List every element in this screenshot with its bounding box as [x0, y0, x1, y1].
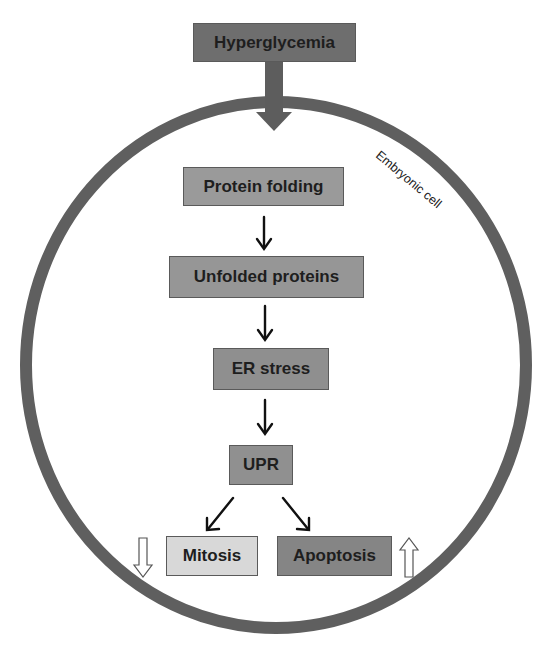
apoptosis-label: Apoptosis — [293, 546, 376, 566]
arrow-down-icon — [257, 217, 271, 249]
apoptosis-box: Apoptosis — [277, 536, 392, 576]
protein-folding-label: Protein folding — [204, 177, 324, 197]
er-stress-box: ER stress — [213, 348, 329, 390]
upr-label: UPR — [243, 455, 279, 475]
diagram-graphics — [0, 0, 552, 649]
unfolded-proteins-label: Unfolded proteins — [194, 267, 339, 287]
mitosis-label: Mitosis — [183, 546, 242, 566]
arrow-down-left-icon — [207, 498, 233, 530]
protein-folding-box: Protein folding — [183, 167, 344, 206]
er-stress-label: ER stress — [232, 359, 310, 379]
decrease-arrow-icon — [134, 538, 152, 577]
hyperglycemia-box: Hyperglycemia — [193, 23, 356, 62]
unfolded-proteins-box: Unfolded proteins — [169, 256, 364, 298]
mitosis-box: Mitosis — [166, 536, 258, 576]
arrow-down-icon — [258, 306, 272, 340]
arrow-down-icon — [258, 400, 272, 434]
hyperglycemia-label: Hyperglycemia — [214, 33, 335, 53]
diagram-canvas: Hyperglycemia Embryonic cell Protein fol… — [0, 0, 552, 649]
increase-arrow-icon — [400, 538, 418, 577]
arrow-down-right-icon — [283, 498, 309, 530]
upr-box: UPR — [229, 445, 293, 485]
